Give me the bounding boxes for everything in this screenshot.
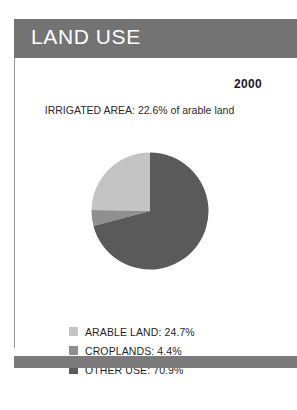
legend-label: CROPLANDS: 4.4%: [85, 345, 182, 357]
legend-swatch-croplands: [69, 346, 78, 355]
land-use-card: LAND USE 2000 IRRIGATED AREA: 22.6% of a…: [14, 19, 297, 379]
legend-label: ARABLE LAND: 24.7%: [85, 326, 195, 338]
pie-svg: [91, 152, 209, 270]
card-body: 2000 IRRIGATED AREA: 22.6% of arable lan…: [14, 58, 297, 348]
legend-item: ARABLE LAND: 24.7%: [69, 322, 279, 341]
page-title: LAND USE: [31, 25, 141, 49]
land-use-pie-chart: [91, 152, 209, 270]
legend-swatch-arable-land: [69, 327, 78, 336]
card-footer-bar: [14, 356, 297, 368]
chart-legend: ARABLE LAND: 24.7% CROPLANDS: 4.4% OTHER…: [69, 322, 279, 379]
card-header-bar: LAND USE: [14, 19, 297, 58]
irrigated-area-note: IRRIGATED AREA: 22.6% of arable land: [15, 104, 264, 116]
year-label: 2000: [234, 77, 262, 91]
pie-slices: [91, 153, 208, 270]
pie-slice-arable-land: [92, 153, 150, 212]
